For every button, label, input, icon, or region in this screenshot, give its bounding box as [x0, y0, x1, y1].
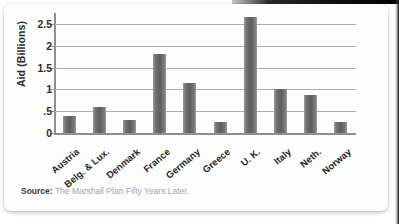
bar — [63, 116, 76, 133]
bar — [334, 122, 347, 133]
y-tick-label: 0 — [12, 127, 52, 139]
source-note: Source: The Marshall Plan Fifty Years La… — [21, 186, 189, 196]
bar — [244, 17, 257, 133]
y-tick-label: 1.5 — [12, 62, 52, 74]
page-root: Aid (Billions) 0.511.522.5 AustriaBelg. … — [0, 0, 399, 224]
plot-area: 0.511.522.5 AustriaBelg. & Lux.DenmarkFr… — [54, 13, 356, 133]
y-tick-label: 2.5 — [12, 18, 52, 30]
source-label: Source: — [21, 186, 53, 196]
y-tick-label: .5 — [12, 105, 52, 117]
x-tick-label: U. K. — [255, 132, 279, 154]
bar — [183, 83, 196, 133]
y-tick-label: 2 — [12, 40, 52, 52]
bar — [304, 95, 317, 133]
bar — [274, 89, 287, 133]
x-tick-label: Italy — [286, 134, 308, 155]
y-tick-label: 1 — [12, 83, 52, 95]
figure-card: Aid (Billions) 0.511.522.5 AustriaBelg. … — [4, 4, 388, 211]
bar-chart: Aid (Billions) 0.511.522.5 AustriaBelg. … — [4, 4, 388, 179]
bars-group — [54, 13, 356, 133]
source-text: The Marshall Plan Fifty Years Later. — [55, 186, 189, 196]
scan-right-edge — [395, 0, 399, 224]
